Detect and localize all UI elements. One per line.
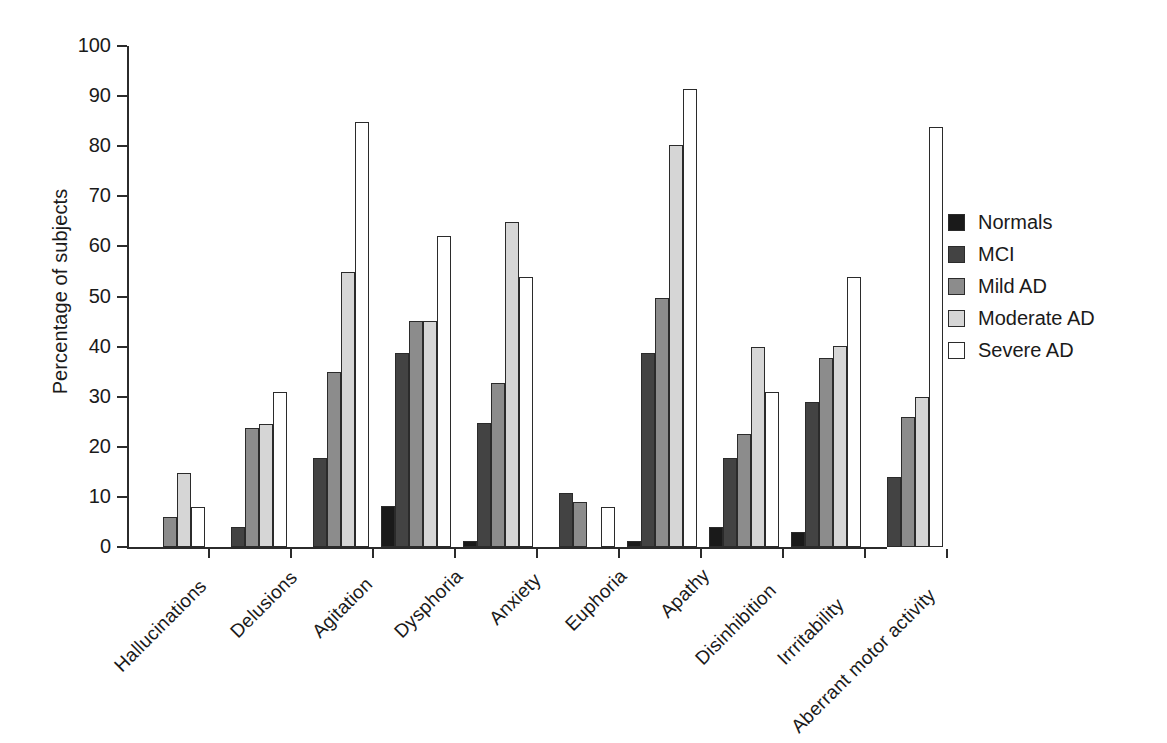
legend-item: Mild AD <box>948 270 1095 302</box>
bar <box>915 397 929 547</box>
bar <box>901 417 915 547</box>
bar <box>709 527 723 547</box>
x-axis-category-label: Aberrant motor activity <box>787 584 940 737</box>
legend-label: Severe AD <box>978 340 1074 360</box>
bar <box>655 298 669 547</box>
x-axis-tick <box>536 549 538 558</box>
bar <box>669 145 683 547</box>
x-axis-category-label: Anxiety <box>485 568 546 629</box>
bar <box>177 473 191 547</box>
bar <box>245 428 259 547</box>
x-axis-tick <box>700 549 702 558</box>
bar <box>273 392 287 547</box>
bar <box>601 507 615 547</box>
x-axis-category-label: Delusions <box>226 567 302 643</box>
bar <box>423 321 437 547</box>
bar <box>805 402 819 547</box>
bar <box>573 502 587 547</box>
legend-item: Normals <box>948 206 1095 238</box>
x-axis-category-label: Dysphoria <box>390 565 467 642</box>
x-axis-category-label: Apathy <box>656 564 714 622</box>
bar <box>327 372 341 547</box>
bar <box>929 127 943 547</box>
bar <box>791 532 805 547</box>
bar <box>409 321 423 547</box>
bar <box>355 122 369 547</box>
bar <box>437 236 451 547</box>
x-axis-tick <box>946 549 948 558</box>
legend-swatch-icon <box>948 214 965 231</box>
x-axis-category-label: Disinhibition <box>691 580 781 670</box>
x-axis-tick <box>782 549 784 558</box>
x-axis-tick <box>864 549 866 558</box>
bar <box>833 346 847 547</box>
bar <box>341 272 355 547</box>
bar <box>381 506 395 547</box>
bar <box>819 358 833 547</box>
bar <box>751 347 765 547</box>
bar <box>765 392 779 547</box>
bar <box>641 353 655 547</box>
x-axis-tick <box>290 549 292 558</box>
x-axis-category-label: Agitation <box>308 574 377 643</box>
x-axis-category-label: Irrritability <box>773 594 849 670</box>
bar <box>723 458 737 547</box>
bar <box>737 434 751 547</box>
bar <box>887 477 901 547</box>
legend-item: MCI <box>948 238 1095 270</box>
bar <box>505 222 519 547</box>
bar <box>683 89 697 547</box>
bar <box>477 423 491 547</box>
bar <box>627 541 641 548</box>
legend-swatch-icon <box>948 342 965 359</box>
legend-item: Moderate AD <box>948 302 1095 334</box>
x-axis-tick <box>454 549 456 558</box>
legend-label: Moderate AD <box>978 308 1095 328</box>
chart-legend: NormalsMCIMild ADModerate ADSevere AD <box>948 206 1095 366</box>
bar <box>395 353 409 547</box>
legend-swatch-icon <box>948 278 965 295</box>
legend-swatch-icon <box>948 310 965 327</box>
bar <box>163 517 177 547</box>
bar <box>559 493 573 547</box>
legend-swatch-icon <box>948 246 965 263</box>
legend-label: MCI <box>978 244 1015 264</box>
legend-item: Severe AD <box>948 334 1095 366</box>
x-axis-category-label: Hallucinations <box>110 575 211 676</box>
x-axis-line <box>127 547 887 549</box>
x-axis-tick <box>618 549 620 558</box>
bar <box>231 527 245 547</box>
x-axis-tick <box>372 549 374 558</box>
bar <box>491 383 505 547</box>
x-axis-category-label: Euphoria <box>561 565 631 635</box>
bar <box>463 541 477 548</box>
legend-label: Mild AD <box>978 276 1047 296</box>
bar <box>519 277 533 547</box>
bar <box>313 458 327 547</box>
bar <box>847 277 861 547</box>
bar <box>191 507 205 547</box>
bar-chart-figure: Percentage of subjects 01020304050607080… <box>0 0 1167 743</box>
x-axis-tick <box>208 549 210 558</box>
bar <box>259 424 273 547</box>
legend-label: Normals <box>978 212 1052 232</box>
